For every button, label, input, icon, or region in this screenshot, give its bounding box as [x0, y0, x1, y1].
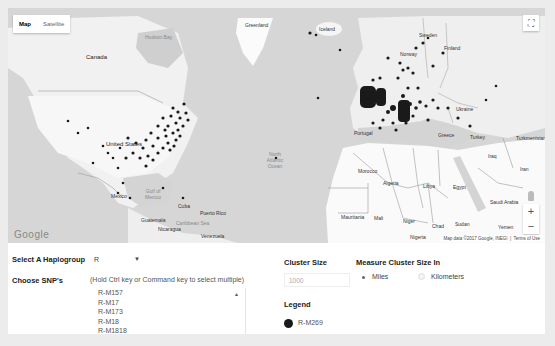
label-greece: Greece — [438, 132, 454, 138]
map-type-control: Map Satellite — [13, 15, 70, 33]
radio-unselected-icon — [418, 273, 425, 280]
attribution-text: Map data ©2017 Google, INEGI — [444, 236, 508, 241]
snp-option[interactable]: R-M18 — [90, 317, 245, 327]
label-iraq: Iraq — [488, 153, 497, 159]
kilometers-radio[interactable]: Kilometers — [418, 273, 464, 280]
label-north-atlantic-ocean: North Atlantic Ocean — [262, 151, 288, 169]
label-norway: Norway — [400, 51, 417, 57]
label-nigeria: Nigeria — [410, 234, 426, 240]
label-canada: Canada — [86, 54, 107, 60]
legend-swatch-icon — [284, 319, 293, 328]
fullscreen-button[interactable]: ⛶ — [523, 15, 539, 31]
street-view-pegman-icon[interactable] — [528, 191, 534, 201]
haplogroup-value: R — [94, 256, 99, 263]
haplogroup-label: Select A Haplogroup — [12, 255, 85, 264]
snps-label: Choose SNP's — [12, 276, 63, 285]
zoom-control: + − — [523, 204, 539, 234]
snp-option[interactable]: R-M157 — [90, 288, 245, 298]
snp-option[interactable]: R-M173 — [90, 307, 245, 317]
haplogroup-select[interactable]: R ▼ — [90, 253, 146, 266]
label-mali: Mali — [374, 215, 383, 221]
label-iceland: Iceland — [319, 26, 335, 32]
label-iran: Iran — [520, 166, 529, 172]
cluster-size-label: Cluster Size — [284, 258, 327, 267]
legend-title: Legend — [284, 300, 311, 309]
label-turkmenistan: Turkmenistan — [516, 135, 545, 141]
radio-selected-icon — [359, 273, 366, 280]
controls-panel: Select A Haplogroup R ▼ Choose SNP's (Ho… — [8, 243, 545, 334]
map-type-satellite-button[interactable]: Satellite — [37, 21, 70, 27]
map-canvas[interactable]: Canada Hudson Bay Greenland Iceland Unit… — [8, 8, 545, 243]
label-caribbean-sea: Caribbean Sea — [176, 220, 209, 226]
label-guatemala: Guatemala — [141, 217, 165, 223]
miles-radio[interactable]: Miles — [359, 273, 388, 280]
label-puerto-rico: Puerto Rico — [200, 210, 226, 216]
label-gulf-of-mexico: Gulf of Mexico — [143, 188, 163, 200]
label-libya: Libya — [423, 183, 435, 189]
dropdown-arrow-icon: ▼ — [134, 253, 140, 266]
label-united-states: United States — [106, 141, 142, 147]
label-ukraine: Ukraine — [456, 106, 473, 112]
measure-label: Measure Cluster Size In — [356, 258, 440, 267]
cluster-size-input[interactable]: 1000 — [284, 273, 350, 287]
kilometers-label: Kilometers — [431, 273, 464, 280]
miles-label: Miles — [372, 273, 388, 280]
snp-option[interactable]: R-M17 — [90, 298, 245, 308]
label-turkey: Turkey — [470, 134, 485, 140]
label-saudi-arabia: Saudi Arabia — [490, 199, 518, 205]
label-chad: Chad — [432, 223, 444, 229]
zoom-in-button[interactable]: + — [523, 204, 539, 219]
map-tiles — [8, 8, 545, 243]
label-yemen: Yemen — [498, 224, 513, 230]
label-mauritania: Mauritania — [341, 214, 364, 220]
label-algeria: Algeria — [383, 180, 399, 186]
label-hudson-bay: Hudson Bay — [145, 34, 172, 40]
snp-option[interactable]: R-M1818 — [90, 326, 245, 336]
terms-of-use-link[interactable]: Terms of Use — [513, 236, 540, 241]
map-type-map-button[interactable]: Map — [13, 21, 37, 27]
fullscreen-icon: ⛶ — [528, 18, 534, 29]
label-portugal: Portugal — [354, 130, 373, 136]
label-sweden: Sweden — [419, 32, 437, 38]
scroll-up-arrow-icon[interactable]: ▲ — [234, 291, 239, 297]
snps-multiselect[interactable]: R-M157 R-M17 R-M173 R-M18 R-M1818 ▲ — [90, 288, 246, 334]
label-greenland: Greenland — [245, 22, 268, 28]
label-cuba: Cuba — [178, 203, 190, 209]
label-mexico: Mexico — [111, 193, 127, 199]
snps-hint: (Hold Ctrl key or Command key to select … — [90, 276, 244, 283]
label-finland: Finland — [444, 45, 460, 51]
google-logo: Google — [14, 229, 49, 240]
legend-item-label: R-M269 — [298, 319, 323, 326]
label-venezuela: Venezuela — [201, 233, 224, 239]
label-morocco: Morocco — [358, 168, 377, 174]
label-niger: Niger — [403, 218, 415, 224]
app-frame: Canada Hudson Bay Greenland Iceland Unit… — [8, 8, 545, 334]
label-nicaragua: Nicaragua — [158, 226, 181, 232]
map-attribution: Map data ©2017 Google, INEGI | Terms of … — [441, 235, 543, 242]
label-sudan: Sudan — [455, 221, 469, 227]
zoom-out-button[interactable]: − — [523, 219, 539, 234]
label-egypt: Egypt — [453, 184, 466, 190]
